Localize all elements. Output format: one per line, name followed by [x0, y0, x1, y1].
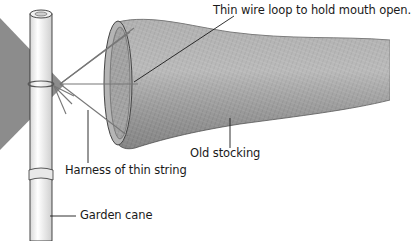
stocking-body — [108, 19, 390, 148]
wire-loop-label: Thin wire loop to hold mouth open. — [213, 3, 411, 17]
harness-label: Harness of thin string — [65, 163, 187, 177]
garden-cane-label: Garden cane — [80, 208, 152, 222]
garden-cane — [29, 10, 53, 241]
stocking-label: Old stocking — [190, 146, 260, 160]
